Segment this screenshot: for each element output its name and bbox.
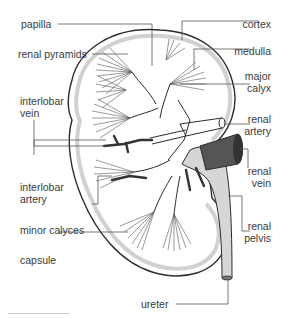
label-renal-pyramids: renal pyramids [18,48,87,60]
label-capsule: capsule [20,254,56,266]
label-interlobar-artery: interlobar artery [20,181,64,205]
label-renal-pelvis: renal pelvis [244,220,271,244]
label-renal-vein: renal vein [248,165,271,189]
label-ureter: ureter [141,298,168,310]
bottom-divider [8,313,70,314]
label-renal-artery: renal artery [244,113,271,137]
label-cortex: cortex [242,18,271,30]
label-minor-calyces: minor calyces [20,224,84,236]
ureter-opening [222,276,232,280]
label-papilla: papilla [21,18,51,30]
label-medulla: medulla [234,45,271,57]
label-major-calyx: major calyx [245,70,271,94]
label-interlobar-vein: interlobar vein [20,95,64,119]
